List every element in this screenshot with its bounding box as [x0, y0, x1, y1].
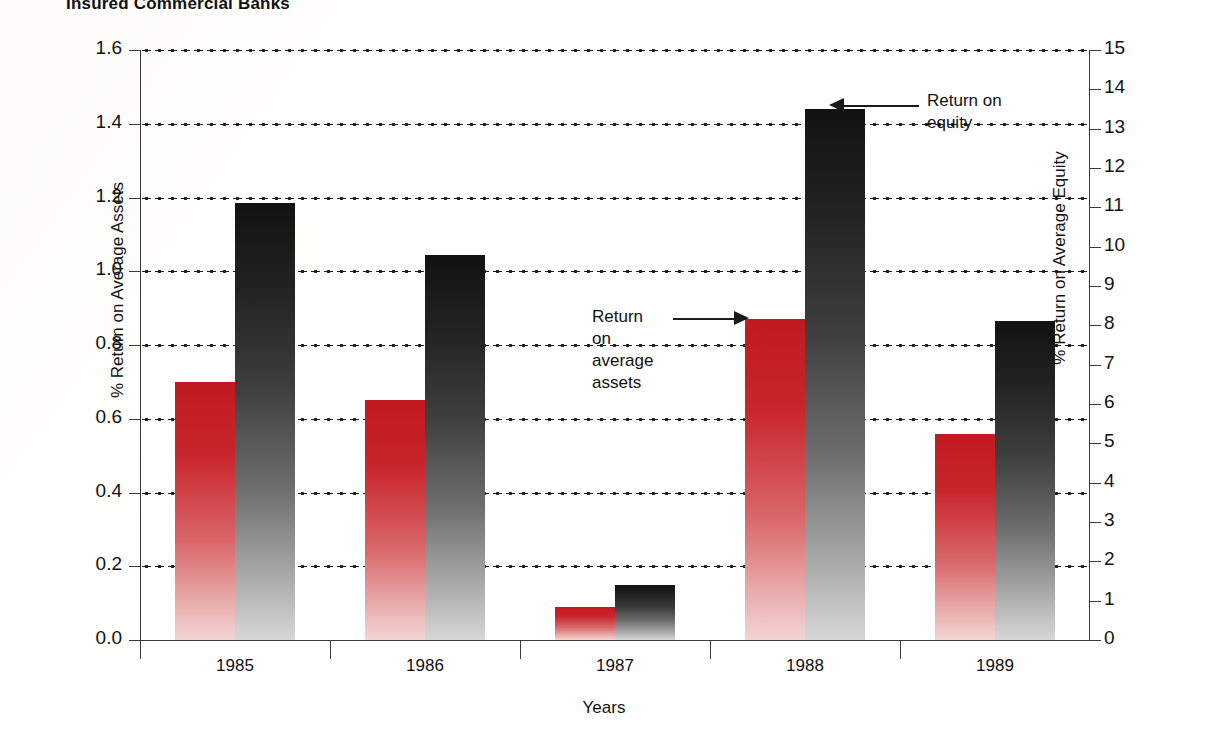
right-axis-tick-label: 13	[1104, 116, 1125, 138]
bar-return-on-equity-1985	[235, 203, 295, 640]
right-axis-tick	[1090, 325, 1101, 326]
right-axis-tick-label: 2	[1104, 548, 1115, 570]
left-axis-tick	[129, 419, 140, 420]
bar-return-on-average-assets-1986	[365, 400, 425, 640]
right-axis-tick	[1090, 207, 1101, 208]
bar-return-on-equity-1986	[425, 255, 485, 640]
annotation-return-on-equity: Return on equity	[927, 90, 1002, 134]
right-axis-tick-label: 10	[1104, 234, 1125, 256]
gridline	[140, 49, 1090, 52]
x-axis-title: Years	[0, 698, 1208, 718]
bar-return-on-equity-1987	[615, 585, 675, 640]
left-axis-tick-label: 1.6	[96, 37, 122, 59]
left-axis-tick-label: 0.4	[96, 480, 122, 502]
right-axis-tick	[1090, 522, 1101, 523]
x-axis-label-1989: 1989	[900, 656, 1090, 676]
left-axis-tick-label: 0.8	[96, 332, 122, 354]
left-axis-tick	[129, 271, 140, 272]
bar-return-on-average-assets-1985	[175, 382, 235, 640]
bar-return-on-equity-1989	[995, 321, 1055, 640]
annotation-equity-arrow-head-icon	[829, 98, 844, 112]
right-axis-tick	[1090, 168, 1101, 169]
right-axis-tick-label: 12	[1104, 155, 1125, 177]
left-axis-title: % Return on Average Assets	[108, 182, 128, 398]
right-axis-tick-label: 7	[1104, 352, 1115, 374]
x-axis-label-1986: 1986	[330, 656, 520, 676]
annotation-assets-arrow-head-icon	[734, 311, 749, 325]
right-axis-tick	[1090, 483, 1101, 484]
right-axis-tick-label: 1	[1104, 588, 1115, 610]
right-axis-tick-label: 9	[1104, 273, 1115, 295]
right-axis-tick-label: 6	[1104, 391, 1115, 413]
right-axis-tick-label: 15	[1104, 37, 1125, 59]
left-axis-tick-label: 1.0	[96, 258, 122, 280]
annotation-equity-arrow-line	[843, 105, 919, 107]
right-axis-tick-label: 0	[1104, 627, 1115, 649]
left-axis-tick	[129, 566, 140, 567]
bar-return-on-equity-1988	[805, 109, 865, 640]
right-axis-title: % Return on Average Equity	[1050, 151, 1070, 364]
right-axis-tick-label: 11	[1104, 194, 1124, 216]
bar-return-on-average-assets-1989	[935, 434, 995, 641]
right-axis-tick	[1090, 129, 1101, 130]
right-axis-tick	[1090, 404, 1101, 405]
right-axis-tick	[1090, 561, 1101, 562]
right-axis-tick	[1090, 443, 1101, 444]
right-axis-tick	[1090, 640, 1101, 641]
bar-return-on-average-assets-1988	[745, 319, 805, 640]
left-axis-tick-label: 1.2	[96, 185, 122, 207]
left-axis-tick-label: 0.6	[96, 406, 122, 428]
right-axis-tick	[1090, 247, 1101, 248]
left-axis-tick	[129, 198, 140, 199]
right-axis-tick	[1090, 50, 1101, 51]
right-axis-tick	[1090, 601, 1101, 602]
bar-return-on-average-assets-1987	[555, 607, 615, 640]
left-axis-tick	[129, 124, 140, 125]
x-axis-label-1988: 1988	[710, 656, 900, 676]
left-axis-tick-label: 1.4	[96, 111, 122, 133]
right-axis-tick-label: 3	[1104, 509, 1115, 531]
left-axis-tick-label: 0.0	[96, 627, 122, 649]
left-axis-tick	[129, 345, 140, 346]
bottom-axis-spine	[131, 640, 1099, 641]
right-axis-tick	[1090, 286, 1101, 287]
left-axis-tick-label: 0.2	[96, 553, 122, 575]
left-axis-tick	[129, 493, 140, 494]
right-axis-tick	[1090, 89, 1101, 90]
right-axis-tick	[1090, 365, 1101, 366]
annotation-assets-arrow-line	[673, 318, 736, 320]
annotation-return-on-average-assets: Return on average assets	[592, 306, 653, 394]
gridline	[140, 197, 1090, 200]
left-axis-tick	[129, 640, 140, 641]
x-axis-label-1987: 1987	[520, 656, 710, 676]
x-axis-label-1985: 1985	[140, 656, 330, 676]
right-axis-tick-label: 4	[1104, 470, 1115, 492]
left-axis-tick	[129, 50, 140, 51]
chart-title: Insured Commercial Banks	[66, 0, 290, 14]
right-axis-tick-label: 5	[1104, 430, 1115, 452]
right-axis-tick-label: 8	[1104, 312, 1115, 334]
right-axis-tick-label: 14	[1104, 76, 1125, 98]
